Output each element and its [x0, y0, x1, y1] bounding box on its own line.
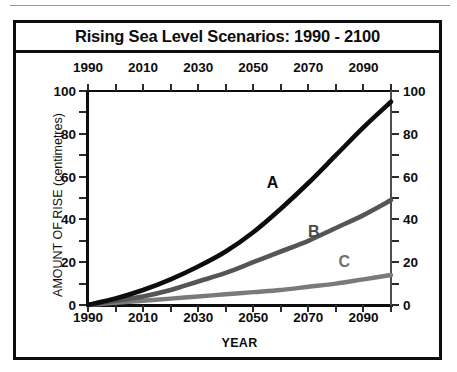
y-tick-left: [79, 240, 86, 242]
y-axis-label-right: 40: [403, 212, 418, 227]
y-tick-right: [392, 283, 399, 285]
y-axis-label-right: 80: [403, 126, 418, 141]
x-tick-top: [252, 84, 254, 91]
y-tick-right: [392, 218, 399, 220]
x-axis-label-top: 1990: [73, 60, 103, 75]
y-tick-left: [79, 111, 86, 113]
y-axis-label-left: 100: [40, 84, 76, 99]
y-axis-label-right: 100: [403, 84, 426, 99]
x-axis-label-bottom: 2070: [293, 310, 323, 325]
x-tick-top: [362, 84, 364, 91]
y-tick-right: [392, 261, 399, 263]
x-axis-label-bottom: 1990: [73, 310, 103, 325]
x-axis-label-bottom: 2030: [183, 310, 213, 325]
x-axis-label-bottom: 2010: [128, 310, 158, 325]
y-tick-right: [392, 133, 399, 135]
y-tick-left: [79, 261, 86, 263]
y-tick-right: [392, 111, 399, 113]
x-tick-top: [87, 84, 89, 91]
x-axis-label-top: 2030: [183, 60, 213, 75]
x-tick-top: [307, 84, 309, 91]
x-tick-bottom: [335, 305, 337, 312]
plot-area: ABC: [88, 91, 391, 305]
y-tick-left: [79, 197, 86, 199]
y-tick-right: [392, 154, 399, 156]
x-tick-top: [225, 84, 227, 91]
series-curves: [88, 91, 391, 305]
y-tick-right: [392, 176, 399, 178]
x-tick-bottom: [280, 305, 282, 312]
y-axis-label-right: 60: [403, 169, 418, 184]
y-tick-left: [79, 304, 86, 306]
y-tick-left: [79, 176, 86, 178]
x-tick-bottom: [225, 305, 227, 312]
x-axis-label-top: 2050: [238, 60, 268, 75]
y-axis-label-right: 0: [403, 298, 411, 313]
x-axis-label-bottom: 2090: [348, 310, 378, 325]
y-tick-right: [392, 90, 399, 92]
x-tick-top: [170, 84, 172, 91]
x-axis-label-bottom: 2050: [238, 310, 268, 325]
series-annotation-b: B: [308, 223, 320, 241]
y-tick-right: [392, 197, 399, 199]
x-tick-top: [197, 84, 199, 91]
x-tick-top: [280, 84, 282, 91]
x-axis-title: YEAR: [88, 336, 391, 350]
plot-wrapper: 1990199020102010203020302050205020702070…: [0, 0, 457, 372]
y-axis-title: AMOUNT OF RISE (centimetres): [51, 105, 65, 305]
y-tick-left: [79, 154, 86, 156]
x-tick-top: [142, 84, 144, 91]
figure-page: Rising Sea Level Scenarios: 1990 - 2100 …: [0, 0, 457, 372]
x-tick-bottom: [170, 305, 172, 312]
x-axis-label-top: 2010: [128, 60, 158, 75]
x-tick-top: [115, 84, 117, 91]
y-axis-label-right: 20: [403, 255, 418, 270]
series-annotation-c: C: [338, 253, 350, 271]
y-tick-right: [392, 240, 399, 242]
x-tick-bottom: [390, 305, 392, 312]
x-tick-bottom: [115, 305, 117, 312]
y-tick-right: [392, 304, 399, 306]
y-tick-left: [79, 133, 86, 135]
x-axis-label-top: 2090: [348, 60, 378, 75]
y-tick-left: [79, 283, 86, 285]
y-tick-left: [79, 90, 86, 92]
y-tick-left: [79, 218, 86, 220]
series-line-a: [88, 102, 391, 305]
series-line-c: [88, 275, 391, 305]
x-tick-top: [335, 84, 337, 91]
series-annotation-a: A: [267, 174, 279, 192]
x-axis-label-top: 2070: [293, 60, 323, 75]
